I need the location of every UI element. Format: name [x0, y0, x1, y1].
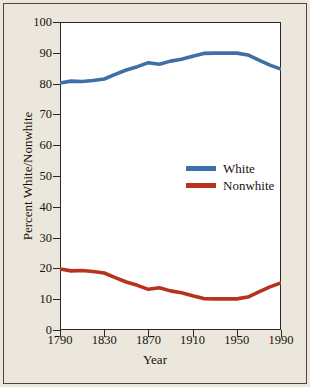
legend-item-nonwhite: Nonwhite [186, 177, 274, 194]
x-tick-mark-1990 [281, 330, 282, 337]
x-tick-mark-1910 [193, 330, 194, 337]
chart-legend: White Nonwhite [186, 160, 274, 194]
x-tick-mark-1950 [237, 330, 238, 337]
y-axis-title: Percent White/Nonwhite [20, 66, 36, 286]
legend-swatch-nonwhite [186, 183, 216, 188]
legend-label-white: White [223, 162, 255, 175]
legend-label-nonwhite: Nonwhite [223, 179, 274, 192]
legend-item-white: White [186, 160, 274, 177]
x-tick-mark-1870 [148, 330, 149, 337]
x-tick-mark-1790 [60, 330, 61, 337]
chart-figure: 0102030405060708090100 17901830187019101… [0, 0, 310, 387]
legend-swatch-white [186, 166, 216, 171]
x-axis-title: Year [0, 352, 310, 368]
x-tick-mark-1830 [104, 330, 105, 337]
